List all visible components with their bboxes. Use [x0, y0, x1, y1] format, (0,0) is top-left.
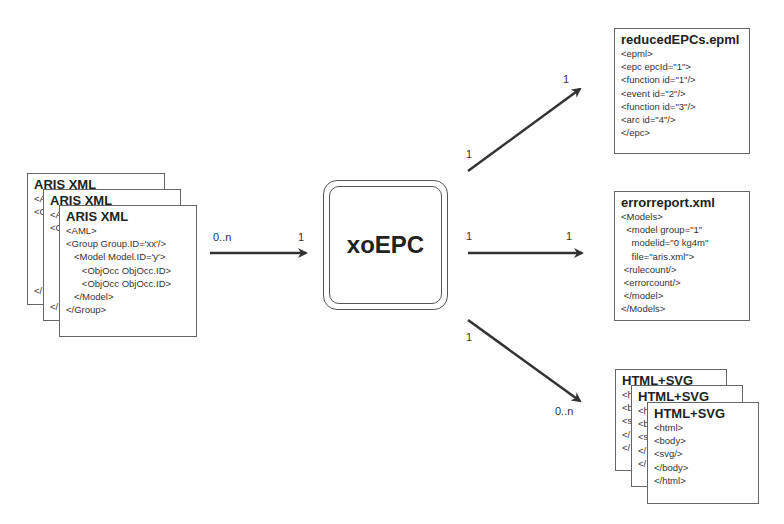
html-target-multiplicity: 0..n: [555, 405, 573, 417]
arrow-xoepc-to-epml: [468, 89, 580, 171]
input-source-multiplicity: 0..n: [213, 231, 231, 243]
doc-title: errorreport.xml: [621, 195, 743, 210]
xoepc-label: xoEPC: [347, 231, 424, 259]
xoepc-processor: xoEPC: [323, 180, 448, 310]
xoepc-processor-inner: xoEPC: [329, 186, 442, 304]
errorreport-target-multiplicity: 1: [566, 230, 572, 242]
aris-xml-doc: ARIS XML <AML> <Group Group.ID='xx'/> <M…: [59, 205, 197, 337]
errorreport-source-multiplicity: 1: [466, 230, 472, 242]
arrow-xoepc-to-html: [468, 320, 580, 401]
errorreport-output-doc: errorreport.xml <Models> <model group="1…: [614, 191, 750, 321]
doc-title: HTML+SVG: [654, 406, 752, 421]
doc-title: reducedEPCs.epml: [621, 32, 743, 47]
epml-output-doc: reducedEPCs.epml <epml> <epc epcId="1"> …: [614, 28, 750, 154]
html-source-multiplicity: 1: [466, 331, 472, 343]
epml-source-multiplicity: 1: [466, 148, 472, 160]
epml-target-multiplicity: 1: [563, 73, 569, 85]
input-target-multiplicity: 1: [298, 231, 304, 243]
html-svg-output-doc: HTML+SVG <html> <body> <svg/> </body> </…: [647, 402, 759, 504]
doc-title: ARIS XML: [66, 209, 190, 224]
